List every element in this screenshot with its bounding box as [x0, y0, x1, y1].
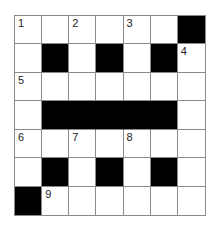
clue-number: 9	[45, 188, 51, 200]
clue-number: 8	[127, 131, 133, 143]
grid-cell[interactable]	[96, 73, 123, 101]
grid-cell[interactable]	[124, 158, 151, 186]
black-cell	[15, 187, 42, 215]
grid-cell[interactable]	[151, 187, 178, 215]
clue-number: 5	[18, 74, 24, 86]
clue-number: 1	[18, 17, 24, 29]
grid-cell[interactable]: 1	[15, 16, 42, 44]
black-cell	[42, 158, 69, 186]
grid-cell[interactable]: 6	[15, 130, 42, 158]
grid-cell[interactable]	[42, 16, 69, 44]
grid-cell[interactable]	[178, 130, 205, 158]
black-cell	[42, 101, 69, 129]
black-cell	[69, 101, 96, 129]
grid-cell[interactable]	[178, 73, 205, 101]
grid-cell[interactable]	[96, 130, 123, 158]
clue-number: 6	[18, 131, 24, 143]
grid-cell[interactable]	[69, 44, 96, 72]
grid-cell[interactable]	[42, 73, 69, 101]
grid-cell[interactable]	[151, 130, 178, 158]
black-cell	[96, 101, 123, 129]
grid-cell[interactable]	[15, 101, 42, 129]
grid-cell[interactable]	[151, 73, 178, 101]
black-cell	[178, 16, 205, 44]
grid-cell[interactable]	[124, 187, 151, 215]
clue-number: 3	[127, 17, 133, 29]
black-cell	[151, 101, 178, 129]
black-cell	[96, 158, 123, 186]
clue-number: 4	[181, 45, 187, 57]
grid-cell[interactable]	[124, 44, 151, 72]
grid-cell[interactable]	[15, 44, 42, 72]
black-cell	[124, 101, 151, 129]
black-cell	[96, 44, 123, 72]
clue-number: 2	[72, 17, 78, 29]
black-cell	[42, 44, 69, 72]
grid-cell[interactable]	[15, 158, 42, 186]
black-cell	[151, 44, 178, 72]
clue-number: 7	[72, 131, 78, 143]
grid-cell[interactable]	[178, 101, 205, 129]
grid-cell[interactable]	[124, 73, 151, 101]
grid-cell[interactable]: 5	[15, 73, 42, 101]
grid-cell[interactable]	[96, 187, 123, 215]
crossword-grid: 123456789	[14, 15, 206, 216]
grid-cell[interactable]	[96, 16, 123, 44]
grid-cell[interactable]	[151, 16, 178, 44]
grid-cell[interactable]: 9	[42, 187, 69, 215]
grid-cell[interactable]: 4	[178, 44, 205, 72]
grid-cell[interactable]	[178, 158, 205, 186]
grid-cell[interactable]: 3	[124, 16, 151, 44]
grid-cell[interactable]	[178, 187, 205, 215]
grid-cell[interactable]: 8	[124, 130, 151, 158]
grid-cell[interactable]: 2	[69, 16, 96, 44]
grid-cell[interactable]	[69, 73, 96, 101]
black-cell	[151, 158, 178, 186]
grid-cell[interactable]	[69, 187, 96, 215]
grid-cell[interactable]: 7	[69, 130, 96, 158]
grid-cell[interactable]	[42, 130, 69, 158]
grid-cell[interactable]	[69, 158, 96, 186]
